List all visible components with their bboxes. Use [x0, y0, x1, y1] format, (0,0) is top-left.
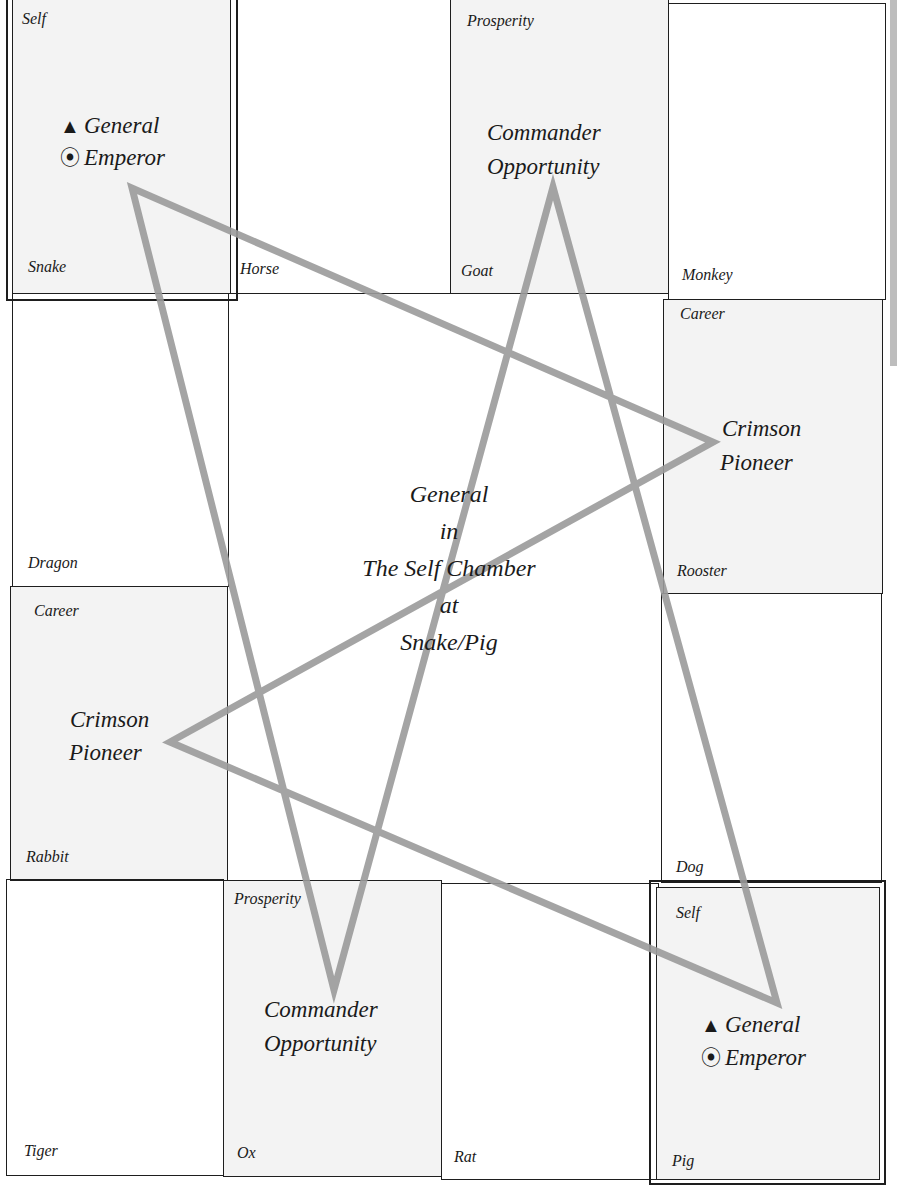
- cell-dragon: [12, 293, 229, 587]
- animal-label: Pig: [672, 1152, 694, 1170]
- animal-label: Rabbit: [26, 848, 69, 866]
- star-opportunity: Opportunity: [487, 151, 599, 183]
- star-emperor: ⦿Emperor: [701, 1042, 806, 1074]
- palace-label: Prosperity: [234, 890, 301, 908]
- center-title: General in The Self Chamber at Snake/Pig: [330, 476, 568, 661]
- circled-dot-icon: ⦿: [60, 142, 84, 174]
- animal-label: Snake: [28, 258, 66, 276]
- animal-label: Monkey: [682, 266, 733, 284]
- star-crimson: Crimson: [722, 413, 801, 445]
- cell-monkey: [668, 3, 886, 300]
- center-line-1: General: [330, 476, 568, 513]
- palace-label: Self: [22, 10, 46, 28]
- palace-label: Self: [676, 904, 700, 922]
- center-line-5: Snake/Pig: [330, 624, 568, 661]
- animal-label: Tiger: [24, 1142, 58, 1160]
- palace-label: Prosperity: [467, 12, 534, 30]
- star-opportunity: Opportunity: [264, 1028, 376, 1060]
- emperor-label: Emperor: [84, 145, 165, 170]
- animal-label: Horse: [240, 260, 279, 278]
- cell-tiger: [6, 879, 224, 1176]
- star-general: ▲General: [60, 110, 159, 142]
- triangle-icon: ▲: [701, 1009, 725, 1041]
- animal-label: Dog: [676, 858, 704, 876]
- triangle-icon: ▲: [60, 110, 84, 142]
- animal-label: Goat: [461, 262, 493, 280]
- cell-horse: [230, 0, 451, 294]
- animal-label: Rooster: [677, 562, 727, 580]
- cell-dog: [661, 593, 882, 883]
- page-edge-strip: [890, 0, 897, 366]
- animal-label: Ox: [237, 1144, 256, 1162]
- center-line-3: The Self Chamber: [330, 550, 568, 587]
- general-label: General: [84, 113, 159, 138]
- star-pioneer: Pioneer: [69, 737, 142, 769]
- emperor-label: Emperor: [725, 1045, 806, 1070]
- general-label: General: [725, 1012, 800, 1037]
- center-line-4: at: [330, 587, 568, 624]
- star-commander: Commander: [264, 994, 378, 1026]
- animal-label: Dragon: [28, 554, 78, 572]
- palace-label: Career: [680, 305, 725, 323]
- star-commander: Commander: [487, 117, 601, 149]
- cell-rat: [441, 883, 659, 1180]
- circled-dot-icon: ⦿: [701, 1042, 725, 1074]
- center-line-2: in: [330, 513, 568, 550]
- palace-label: Career: [34, 602, 79, 620]
- star-emperor: ⦿Emperor: [60, 142, 165, 174]
- star-pioneer: Pioneer: [720, 447, 793, 479]
- star-crimson: Crimson: [70, 704, 149, 736]
- animal-label: Rat: [454, 1148, 476, 1166]
- star-general: ▲General: [701, 1009, 800, 1041]
